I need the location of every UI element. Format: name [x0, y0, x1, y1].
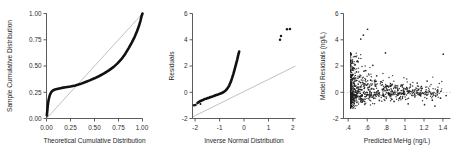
panel1-xtick-3: 0.75: [112, 124, 125, 131]
panel1-xtick-2: 0.50: [88, 124, 101, 131]
scatter-point: [432, 88, 433, 89]
scatter-point: [408, 97, 409, 98]
scatter-point: [371, 93, 372, 94]
scatter-point: [439, 83, 440, 84]
scatter-point: [433, 93, 434, 94]
scatter-point: [370, 95, 371, 96]
scatter-point: [350, 97, 351, 98]
scatter-point: [383, 99, 384, 100]
panel1-y-ticks: 0.00 0.25 0.50 0.75 1.00: [29, 10, 46, 122]
scatter-point: [359, 74, 360, 75]
panel3-ytick-3: 4: [335, 36, 339, 43]
scatter-point: [385, 90, 386, 91]
scatter-point: [365, 79, 366, 80]
scatter-point: [394, 90, 395, 91]
panel3-xtick-1: .6: [365, 124, 371, 131]
scatter-point: [353, 100, 354, 101]
scatter-point: [422, 100, 423, 101]
scatter-point: [353, 56, 354, 57]
scatter-point: [360, 58, 361, 59]
panel1-ytick-2: 0.50: [29, 62, 42, 69]
scatter-point: [413, 95, 414, 96]
scatter-point: [381, 89, 383, 91]
scatter-point: [369, 85, 370, 86]
scatter-point: [372, 64, 374, 66]
scatter-point: [366, 94, 367, 95]
scatter-point: [358, 71, 359, 72]
scatter-point: [398, 100, 399, 101]
scatter-point: [363, 93, 364, 94]
scatter-point: [360, 93, 361, 94]
scatter-point: [369, 99, 370, 100]
scatter-point: [357, 76, 358, 77]
scatter-point: [369, 93, 370, 94]
scatter-point: [361, 85, 362, 86]
scatter-point: [356, 55, 357, 56]
panel1-x-ticks: 0.00 0.25 0.50 0.75 1.00: [40, 119, 148, 131]
scatter-point: [360, 101, 361, 102]
scatter-point: [420, 87, 421, 88]
scatter-point: [391, 90, 393, 92]
scatter-point: [360, 54, 361, 55]
scatter-point: [408, 92, 409, 93]
panel2-data-curve: [193, 28, 292, 107]
scatter-point: [421, 86, 422, 87]
scatter-point: [375, 81, 376, 82]
scatter-point: [352, 78, 353, 79]
scatter-point: [399, 97, 401, 99]
scatter-point: [416, 82, 418, 84]
scatter-point: [350, 100, 351, 101]
panel-normal-qq-plot: -2 0 2 4 6 -2 -1 0 1 2: [152, 0, 305, 162]
scatter-point: [394, 94, 395, 95]
scatter-point: [356, 105, 357, 106]
scatter-point: [371, 76, 372, 77]
scatter-point: [353, 68, 355, 70]
scatter-point: [351, 72, 352, 73]
scatter-point: [404, 91, 405, 92]
scatter-point: [358, 98, 360, 100]
scatter-point: [420, 93, 421, 94]
scatter-point: [414, 91, 415, 92]
scatter-point: [403, 88, 404, 89]
scatter-point: [375, 92, 376, 93]
scatter-point: [366, 75, 367, 76]
scatter-point: [351, 95, 353, 97]
scatter-point: [437, 89, 439, 91]
panel1-low-outlier: [46, 114, 49, 117]
scatter-point: [402, 86, 403, 87]
scatter-point: [424, 92, 425, 93]
scatter-point: [435, 88, 436, 89]
scatter-point: [412, 82, 413, 83]
scatter-point: [393, 80, 394, 81]
scatter-point: [378, 93, 379, 94]
scatter-point: [380, 81, 382, 83]
scatter-point: [350, 108, 351, 109]
scatter-point: [370, 73, 371, 74]
scatter-point: [381, 97, 382, 98]
scatter-point: [374, 83, 375, 84]
scatter-point: [382, 80, 383, 81]
scatter-point: [374, 85, 376, 87]
scatter-point: [358, 67, 359, 68]
scatter-point: [362, 77, 363, 78]
scatter-point: [364, 84, 365, 85]
panel3-x-ticks: .4 .6 .8 1 1.2 1.4: [346, 119, 448, 131]
panel3-ytick-4: 6: [335, 10, 339, 17]
panel3-scatter-points: [350, 28, 447, 109]
scatter-point: [370, 79, 372, 81]
panel1-ytick-1: 0.25: [29, 89, 42, 96]
scatter-point: [418, 92, 419, 93]
panel3-xtick-0: .4: [346, 124, 352, 131]
scatter-point: [358, 103, 359, 104]
scatter-point: [370, 83, 371, 84]
scatter-point: [417, 90, 418, 91]
scatter-point: [353, 97, 355, 99]
scatter-point: [392, 83, 393, 84]
panel3-ytick-2: 2: [335, 62, 339, 69]
scatter-point: [350, 65, 351, 66]
scatter-point: [407, 81, 408, 82]
scatter-point: [425, 93, 426, 94]
scatter-point: [350, 67, 351, 68]
scatter-point: [435, 93, 436, 94]
panel3-xtick-3: 1: [403, 124, 407, 131]
